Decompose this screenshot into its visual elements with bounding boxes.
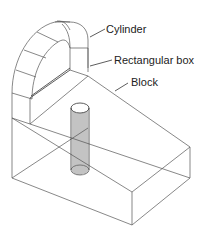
cad-diagram: Cylinder Rectangular box Block — [0, 0, 200, 234]
rectangular-box-leader — [90, 60, 112, 66]
block-leader — [115, 83, 128, 91]
rectangular-box-label: Rectangular box — [114, 54, 194, 66]
wireframe-drawing — [0, 0, 200, 234]
cylinder-shape — [12, 21, 88, 99]
block-label: Block — [131, 76, 158, 88]
cylinder-label: Cylinder — [106, 23, 146, 35]
cylinder-leader — [90, 29, 105, 37]
block-shape — [12, 76, 190, 225]
